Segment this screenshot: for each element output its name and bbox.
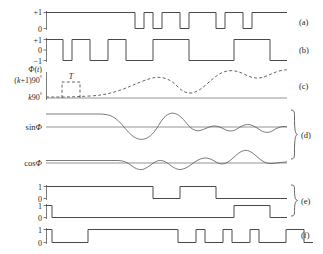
- panel-c-label-upper: (k+1)90°: [14, 75, 42, 85]
- panel-f-label-low: 0: [38, 239, 42, 248]
- panel-b: +1 0 −1 (b): [33, 36, 309, 66]
- panel-e2-label-low: 0: [38, 214, 42, 223]
- panel-e1-waveform: [46, 187, 287, 199]
- panel-b-waveform: [46, 40, 287, 61]
- panel-e: 1 0 1 0 (e): [38, 183, 311, 223]
- panel-c-label-lower: k90°: [28, 92, 42, 102]
- panel-b-label-high: +1: [33, 36, 42, 45]
- panel-d-sin-curve: [46, 113, 287, 139]
- panel-d: sinΦ cosΦ (d): [24, 110, 311, 170]
- panel-c-signal-label: Φ(t): [28, 65, 42, 74]
- panel-letter-b: (b): [299, 45, 309, 55]
- panel-b-label-mid: 0: [38, 46, 42, 55]
- timing-diagram-canvas: +1 0 (a) +1 0 −1 (b) T Φ(t) (k: [0, 0, 323, 254]
- panel-d-brace: [291, 110, 298, 159]
- panel-e1-label-high: 1: [38, 183, 42, 192]
- panel-a-label-high: +1: [33, 8, 42, 17]
- panel-e-brace: [291, 185, 298, 216]
- period-marker-label: T: [69, 72, 74, 81]
- panel-f: 1 0 (f): [38, 226, 313, 248]
- panel-e2-waveform: [46, 206, 287, 218]
- panel-d-cos-curve: [46, 150, 287, 169]
- panel-letter-a: (a): [299, 17, 309, 27]
- panel-letter-d: (d): [301, 130, 311, 140]
- panel-letter-c: (c): [299, 81, 309, 91]
- panel-a-waveform: [46, 13, 287, 29]
- timing-diagram-figure: +1 0 (a) +1 0 −1 (b) T Φ(t) (k: [0, 0, 323, 254]
- period-marker-box: [62, 82, 80, 98]
- panel-e2-label-high: 1: [38, 202, 42, 211]
- panel-f-waveform: [46, 230, 313, 243]
- panel-letter-e: (e): [301, 196, 311, 206]
- panel-c-phase-curve: [46, 70, 287, 97]
- panel-a-label-low: 0: [38, 25, 42, 34]
- panel-f-label-high: 1: [38, 226, 42, 235]
- panel-d-sin-label: sinΦ: [26, 122, 43, 132]
- panel-d-cos-label: cosΦ: [24, 158, 42, 168]
- panel-letter-f: (f): [301, 230, 310, 240]
- panel-a: +1 0 (a): [33, 8, 308, 34]
- panel-c: T Φ(t) (k+1)90° k90° (c): [14, 65, 308, 102]
